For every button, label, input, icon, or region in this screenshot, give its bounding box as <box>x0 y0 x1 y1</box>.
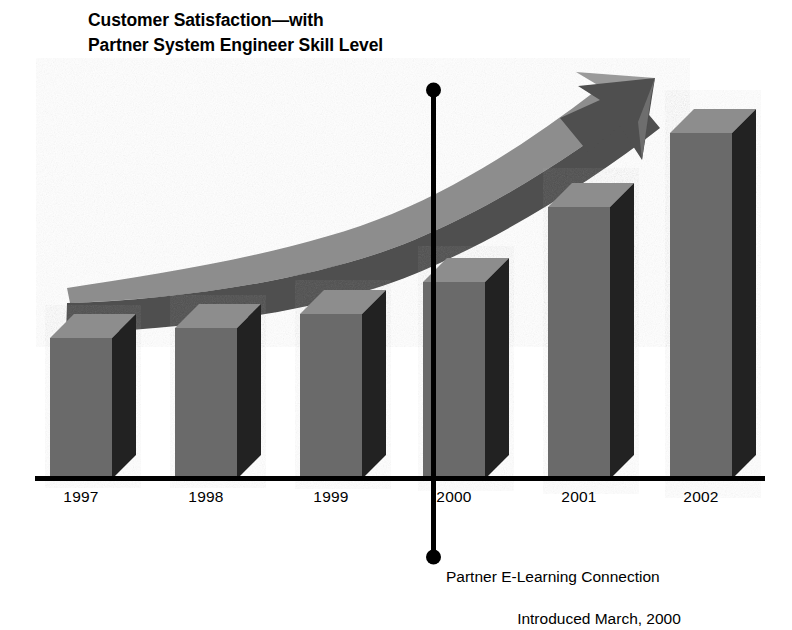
marker-dot-bottom-icon <box>426 550 441 565</box>
bar-2001 <box>548 183 634 479</box>
bar-front-face <box>670 133 732 479</box>
bar-side-face <box>610 183 634 479</box>
bar-front-face <box>548 207 610 479</box>
bar-1997 <box>50 314 136 479</box>
x-tick-label-2002: 2002 <box>661 488 741 506</box>
bar-side-face <box>362 290 386 479</box>
x-tick-label-1998: 1998 <box>166 488 246 506</box>
event-annotation-line-2: Introduced March, 2000 <box>446 608 766 629</box>
bar-front-face <box>50 338 112 479</box>
bar-1999 <box>300 290 386 479</box>
bar-side-face <box>112 314 136 479</box>
x-tick-label-2000: 2000 <box>414 488 494 506</box>
bar-side-face <box>485 258 509 479</box>
bar-front-face <box>300 314 362 479</box>
bar-side-face <box>237 304 261 479</box>
x-axis-baseline <box>35 476 765 481</box>
event-annotation-line-1: Partner E-Learning Connection <box>446 566 766 587</box>
bar-front-face <box>175 328 237 479</box>
bar-2002 <box>670 109 756 479</box>
x-tick-label-1999: 1999 <box>291 488 371 506</box>
bar-side-face <box>732 109 756 479</box>
event-annotation: Partner E-Learning Connection Introduced… <box>446 545 766 630</box>
x-tick-label-2001: 2001 <box>539 488 619 506</box>
bar-1998 <box>175 304 261 479</box>
marker-dot-top-icon <box>426 83 441 98</box>
x-tick-label-1997: 1997 <box>41 488 121 506</box>
